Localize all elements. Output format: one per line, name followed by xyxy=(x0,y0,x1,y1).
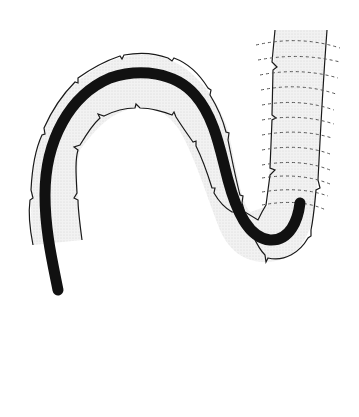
colon-endoscope-illustration xyxy=(0,0,359,417)
